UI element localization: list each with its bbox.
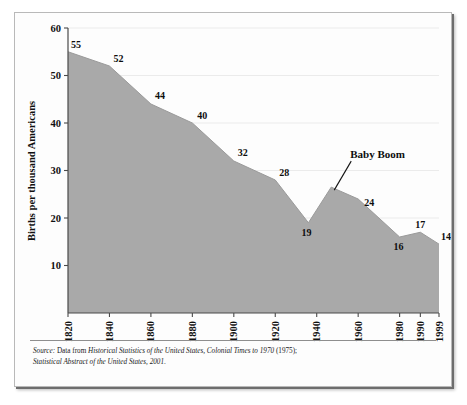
x-tick-label-1940: 1940 xyxy=(311,321,322,342)
y-axis-title: Births per thousand Americans xyxy=(26,101,37,241)
source-title-2: Statistical Abstract of the United State… xyxy=(33,358,164,366)
x-tick-label-1990: 1990 xyxy=(415,321,426,342)
x-tick-label-1999: 1999 xyxy=(434,321,445,342)
point-label-44: 44 xyxy=(155,90,165,101)
y-tick-label-50: 50 xyxy=(51,70,62,81)
point-label-16: 16 xyxy=(394,241,404,252)
point-label-24: 24 xyxy=(364,197,374,208)
x-tick-label-1840: 1840 xyxy=(104,321,115,342)
y-tick-label-60: 60 xyxy=(51,23,62,34)
source-divider xyxy=(30,340,436,341)
x-tick-label-1920: 1920 xyxy=(270,321,281,342)
y-tick-label-10: 10 xyxy=(51,260,62,271)
point-label-55: 55 xyxy=(71,39,81,50)
point-label-14.5: 14.5 xyxy=(441,231,451,242)
point-label-28: 28 xyxy=(279,167,289,178)
source-lead-label: Source: xyxy=(33,347,55,355)
source-line-2-post: . xyxy=(164,358,166,366)
source-note: Source: Data from Historical Statistics … xyxy=(33,346,433,368)
source-line-1: Source: Data from Historical Statistics … xyxy=(33,346,433,357)
source-line-1-pre: Data from xyxy=(55,347,88,355)
y-axis-ticks: 102030405060 xyxy=(51,23,69,272)
births-rate-area-chart: 102030405060 182018401860188019001920194… xyxy=(15,13,451,386)
point-label-19: 19 xyxy=(301,227,311,238)
figure-frame: 102030405060 182018401860188019001920194… xyxy=(14,12,452,387)
y-tick-label-30: 30 xyxy=(51,165,62,176)
x-axis-ticks: 1820184018601880190019201940196019801990… xyxy=(63,313,445,342)
x-tick-label-1880: 1880 xyxy=(187,321,198,342)
x-tick-label-1900: 1900 xyxy=(228,321,239,342)
x-tick-label-1980: 1980 xyxy=(394,321,405,342)
y-tick-label-20: 20 xyxy=(51,213,62,224)
source-line-1-post: (1975); xyxy=(274,347,297,355)
point-label-17: 17 xyxy=(415,219,425,230)
x-tick-label-1960: 1960 xyxy=(353,321,364,342)
point-label-32: 32 xyxy=(238,147,248,158)
x-tick-label-1820: 1820 xyxy=(63,321,74,342)
point-label-52: 52 xyxy=(113,53,123,64)
x-tick-label-1860: 1860 xyxy=(146,321,157,342)
y-tick-label-40: 40 xyxy=(51,118,62,129)
point-label-40: 40 xyxy=(197,110,207,121)
annotation-label: Baby Boom xyxy=(350,148,405,160)
source-line-2: Statistical Abstract of the United State… xyxy=(33,357,433,368)
source-title-1: Historical Statistics of the United Stat… xyxy=(88,347,274,355)
